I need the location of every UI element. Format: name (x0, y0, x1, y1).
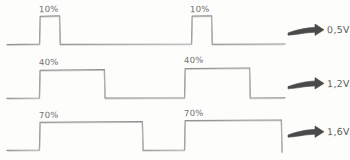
pwm-row-2: 70% 70% 1,6V (0, 105, 344, 160)
duty-cycle-label-row2-pulse2: 70% (184, 108, 204, 118)
duty-cycle-label-row1-pulse1: 40% (39, 57, 59, 67)
duty-cycle-label-row2-pulse1: 70% (39, 110, 59, 120)
output-voltage-label-row1: 1,2V (327, 78, 350, 90)
duty-cycle-label-row0-pulse1: 10% (39, 4, 59, 14)
duty-cycle-label-row0-pulse2: 10% (190, 4, 210, 14)
output-voltage-label-row2: 1,6V (327, 126, 350, 138)
duty-cycle-label-row1-pulse2: 40% (184, 55, 204, 65)
pwm-row-0: 10% 10% 0,5V (0, 0, 344, 52)
output-voltage-label-row0: 0,5V (327, 24, 350, 36)
pwm-row-1: 40% 40% 1,2V (0, 52, 344, 105)
